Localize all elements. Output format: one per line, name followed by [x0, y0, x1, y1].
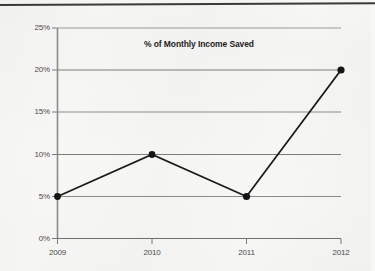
data-point-2010 [149, 151, 156, 158]
y-axis-label-15: 15% [24, 107, 50, 116]
y-axis-label-20: 20% [24, 65, 50, 74]
data-point-markers [54, 66, 345, 200]
data-point-2012 [337, 66, 344, 73]
data-point-2009 [54, 193, 61, 200]
data-point-2011 [243, 193, 250, 200]
x-axis-label-2012: 2012 [321, 248, 361, 257]
x-axis-label-2010: 2010 [132, 248, 172, 257]
x-axis-label-2009: 2009 [38, 248, 78, 257]
x-axis-ticks [58, 239, 342, 245]
y-axis-label-10: 10% [24, 150, 50, 159]
chart-title: % of Monthly Income Saved [57, 39, 341, 49]
y-axis-ticks [52, 28, 57, 239]
y-axis-label-5: 5% [24, 192, 50, 201]
y-axis-label-0: 0% [24, 234, 50, 243]
gridlines [57, 28, 341, 197]
y-axis-label-25: 25% [24, 23, 50, 32]
x-axis-label-2011: 2011 [227, 248, 267, 257]
data-series-line [58, 70, 342, 197]
